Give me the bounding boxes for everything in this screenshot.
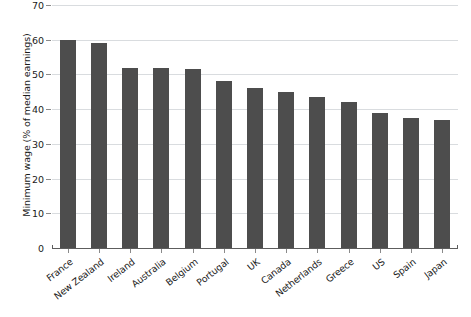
bar (372, 113, 388, 248)
x-axis-tick (349, 249, 350, 253)
x-axis-tick (130, 249, 131, 253)
x-axis-tick (380, 249, 381, 253)
x-axis-tick (411, 249, 412, 253)
y-axis-tick-label: 50 (32, 69, 44, 80)
x-axis-tick (193, 249, 194, 253)
x-axis-tick (68, 249, 69, 253)
bar (60, 40, 76, 248)
x-axis-tick (224, 249, 225, 253)
y-axis-tick-label: 60 (32, 34, 44, 45)
y-axis-tick (46, 109, 51, 110)
bar (309, 97, 325, 248)
bar-series (52, 5, 458, 248)
bar (216, 81, 232, 248)
bar (122, 68, 138, 249)
bar (247, 88, 263, 248)
y-axis-tick (46, 179, 51, 180)
bar-chart: Minimum wage (% of median earnings) 0102… (0, 0, 471, 317)
y-axis-tick-label: 70 (32, 0, 44, 11)
plot-area: 010203040506070 (52, 5, 458, 248)
x-axis-tick (286, 249, 287, 253)
x-axis-tick (317, 249, 318, 253)
bar (278, 92, 294, 248)
x-axis-tick-label-text: UK (245, 256, 262, 272)
bar (403, 118, 419, 248)
y-axis-tick-label: 30 (32, 138, 44, 149)
bar (153, 68, 169, 249)
x-axis-tick-label-text: US (370, 256, 387, 272)
bar (91, 43, 107, 248)
y-axis-tick-label: 40 (32, 104, 44, 115)
x-axis-tick-label: US (380, 248, 397, 264)
y-axis-tick-label: 10 (32, 208, 44, 219)
x-axis-tick (99, 249, 100, 253)
y-axis-tick (46, 74, 51, 75)
y-axis-tick (46, 213, 51, 214)
y-axis-tick-label: 20 (32, 173, 44, 184)
bar (185, 69, 201, 248)
x-axis-tick (161, 249, 162, 253)
y-axis-tick-label: 0 (38, 243, 44, 254)
x-axis-tick (442, 249, 443, 253)
y-axis-tick (46, 40, 51, 41)
x-axis-tick (255, 249, 256, 253)
x-axis-tick-label: UK (255, 248, 272, 264)
y-axis-tick (46, 5, 51, 6)
x-axis-tick-label-text: Japan (422, 256, 449, 280)
x-axis-tick-label-text: Spain (391, 256, 418, 280)
y-axis-tick (46, 144, 51, 145)
bar (434, 120, 450, 248)
